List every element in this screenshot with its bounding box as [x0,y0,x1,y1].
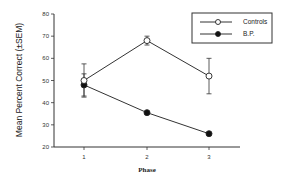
y-tick-label: 70 [42,33,49,39]
legend-label: B.P. [243,30,255,37]
y-tick-label: 40 [42,100,49,106]
y-tick-label: 50 [42,78,49,84]
open-circle-marker [206,73,212,79]
y-axis-label: Mean Percent Correct (±SEM) [14,23,24,137]
legend-label: Controls [243,18,268,25]
open-circle-icon [216,20,221,25]
open-circle-marker [81,78,87,84]
x-axis-label: Phase [138,166,156,174]
x-tick-label: 2 [145,154,149,160]
y-tick-label: 30 [42,122,49,128]
open-circle-marker [144,38,150,44]
x-tick-label: 1 [82,154,86,160]
filled-circle-icon [216,32,221,37]
series-line [84,41,209,81]
line-chart: 20304050607080123PhaseMean Percent Corre… [0,0,298,183]
filled-circle-marker [206,131,212,137]
y-tick-label: 60 [42,55,49,61]
filled-circle-marker [144,110,150,116]
y-tick-label: 20 [42,144,49,150]
y-tick-label: 80 [42,11,49,17]
x-tick-label: 3 [207,154,211,160]
